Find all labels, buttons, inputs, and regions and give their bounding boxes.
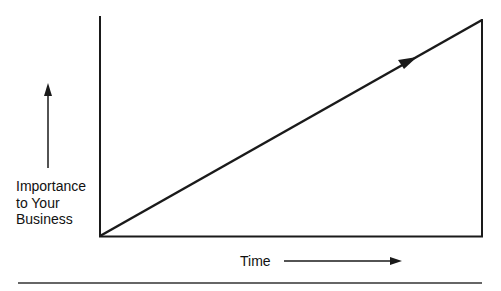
y-axis-label-line: to Your xyxy=(16,195,86,212)
y-axis-label: Importance to Your Business xyxy=(16,178,86,228)
y-axis-label-line: Business xyxy=(16,211,86,228)
x-axis-label: Time xyxy=(240,253,271,270)
right-arrow-icon xyxy=(284,257,402,265)
up-arrow-icon xyxy=(44,83,52,168)
growth-line xyxy=(100,20,482,236)
diagram-canvas xyxy=(0,0,501,291)
y-axis-label-line: Importance xyxy=(16,178,86,195)
